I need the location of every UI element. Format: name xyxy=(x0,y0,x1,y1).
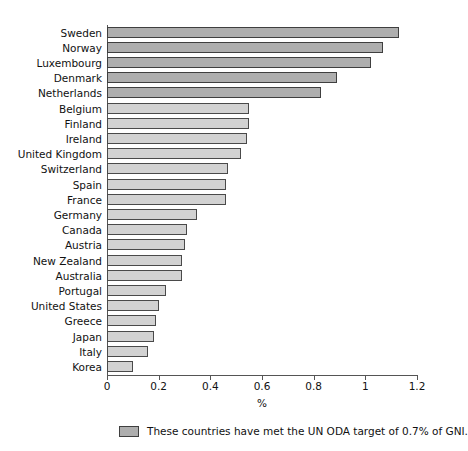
bar-row: France xyxy=(107,192,417,207)
bar-row: New Zealand xyxy=(107,253,417,268)
x-tick-label: 1 xyxy=(362,381,369,392)
x-tick-label: 0.4 xyxy=(202,381,219,392)
legend-label-met-target: These countries have met the UN ODA targ… xyxy=(147,425,468,437)
bar-row: Austria xyxy=(107,238,417,253)
bar xyxy=(107,133,247,144)
bar xyxy=(107,239,185,250)
bar-row: Japan xyxy=(107,329,417,344)
bar xyxy=(107,103,249,114)
category-label: Netherlands xyxy=(38,88,102,99)
bar xyxy=(107,346,148,357)
category-label: New Zealand xyxy=(33,255,102,266)
category-label: Portugal xyxy=(59,286,103,297)
bar-row: Italy xyxy=(107,344,417,359)
bar-row: Finland xyxy=(107,116,417,131)
category-label: Australia xyxy=(56,271,102,282)
bar-row: Spain xyxy=(107,177,417,192)
bar-row: Netherlands xyxy=(107,86,417,101)
bar xyxy=(107,27,399,38)
bar-row: Luxembourg xyxy=(107,55,417,70)
bar-row: Canada xyxy=(107,223,417,238)
x-axis-title: % xyxy=(107,397,417,409)
bar xyxy=(107,87,321,98)
bar xyxy=(107,331,154,342)
category-label: Spain xyxy=(73,179,102,190)
category-label: Austria xyxy=(65,240,102,251)
category-label: Sweden xyxy=(61,27,103,38)
chart-legend: These countries have met the UN ODA targ… xyxy=(119,425,468,437)
bar-row: Greece xyxy=(107,314,417,329)
category-label: Denmark xyxy=(54,73,102,84)
bar xyxy=(107,194,226,205)
x-tick-label: 1.2 xyxy=(409,381,426,392)
legend-swatch-met-target xyxy=(119,426,139,437)
category-label: Greece xyxy=(65,316,102,327)
category-label: Finland xyxy=(64,119,102,130)
bar-row: Belgium xyxy=(107,101,417,116)
bar xyxy=(107,300,159,311)
bar xyxy=(107,209,197,220)
bar xyxy=(107,270,182,281)
bar-row: Denmark xyxy=(107,71,417,86)
bar-row: Korea xyxy=(107,359,417,374)
category-label: Germany xyxy=(54,210,102,221)
category-label: Luxembourg xyxy=(37,58,102,69)
category-label: Italy xyxy=(79,347,102,358)
bar-row: Portugal xyxy=(107,283,417,298)
category-label: Ireland xyxy=(66,134,102,145)
category-label: United States xyxy=(31,301,102,312)
bar-row: Australia xyxy=(107,268,417,283)
category-label: Japan xyxy=(73,331,102,342)
bar xyxy=(107,72,337,83)
category-label: Korea xyxy=(72,362,102,373)
bar-row: Switzerland xyxy=(107,162,417,177)
bar xyxy=(107,224,187,235)
bar xyxy=(107,361,133,372)
bar xyxy=(107,179,226,190)
x-tick-label: 0 xyxy=(104,381,111,392)
x-tick-label: 0.6 xyxy=(254,381,271,392)
bar-row: Norway xyxy=(107,40,417,55)
bar xyxy=(107,42,383,53)
category-label: France xyxy=(67,195,102,206)
bar xyxy=(107,255,182,266)
category-label: Canada xyxy=(62,225,102,236)
x-tick-label: 0.8 xyxy=(305,381,322,392)
bar xyxy=(107,285,166,296)
category-label: Norway xyxy=(62,43,102,54)
category-label: Belgium xyxy=(59,103,102,114)
bar xyxy=(107,57,371,68)
bar-row: Germany xyxy=(107,207,417,222)
plot-area: SwedenNorwayLuxembourgDenmarkNetherlands… xyxy=(107,25,417,375)
bar-row: United States xyxy=(107,299,417,314)
bar-row: Sweden xyxy=(107,25,417,40)
bar-row: Ireland xyxy=(107,131,417,146)
bar xyxy=(107,163,228,174)
category-label: United Kingdom xyxy=(18,149,102,160)
x-tick-label: 0.2 xyxy=(150,381,167,392)
bar-row: United Kingdom xyxy=(107,147,417,162)
bar xyxy=(107,148,241,159)
bar xyxy=(107,118,249,129)
category-label: Switzerland xyxy=(41,164,102,175)
bar xyxy=(107,315,156,326)
